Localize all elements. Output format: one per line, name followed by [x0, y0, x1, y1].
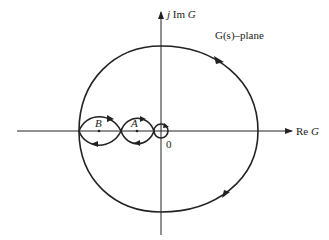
nyquist-diagram — [0, 0, 329, 240]
arrow-icon — [214, 56, 224, 64]
arrow-icon — [163, 123, 169, 128]
arrow-icon — [134, 140, 140, 146]
real-prefix: Re — [296, 125, 311, 137]
plane-label: G(s)–plane — [215, 30, 264, 41]
arrow-icon — [91, 141, 98, 147]
arrow-icon — [140, 116, 146, 122]
imag-mid: Im — [170, 8, 188, 20]
imag-var: G — [188, 8, 196, 20]
point-a-label: A — [131, 118, 138, 129]
point-b-label: B — [95, 118, 102, 129]
point-b-marker — [98, 130, 101, 133]
point-a-marker — [136, 130, 139, 133]
real-var: G — [311, 125, 319, 137]
imaginary-axis-label: j Im G — [167, 9, 196, 20]
origin-label: 0 — [166, 139, 172, 150]
real-axis-label: Re G — [296, 126, 319, 137]
